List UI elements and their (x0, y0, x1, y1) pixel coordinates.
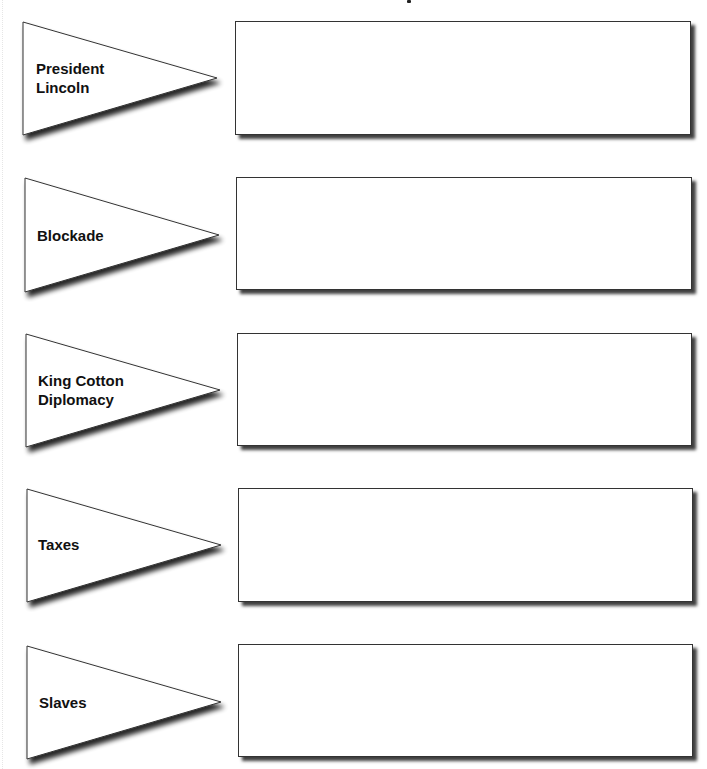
answer-box[interactable] (237, 333, 692, 446)
pennant-icon (0, 467, 240, 607)
pennant-label: Taxes (38, 535, 79, 554)
pennant-shape: Taxes (0, 467, 240, 607)
pennant-label: Slaves (39, 693, 87, 712)
worksheet-row-slaves: Slaves (0, 0, 707, 140)
answer-box[interactable] (238, 644, 693, 757)
pennant-label: King Cotton Diplomacy (38, 371, 124, 409)
answer-box[interactable] (238, 488, 693, 602)
pennant-shape: Slaves (0, 624, 240, 764)
pennant-label: Blockade (37, 226, 104, 245)
pennant-shape: Blockade (0, 156, 240, 296)
pennant-shape: King Cotton Diplomacy (0, 312, 240, 452)
pennant-icon (0, 624, 240, 764)
answer-box[interactable] (236, 177, 692, 290)
pennant-icon (0, 156, 240, 296)
